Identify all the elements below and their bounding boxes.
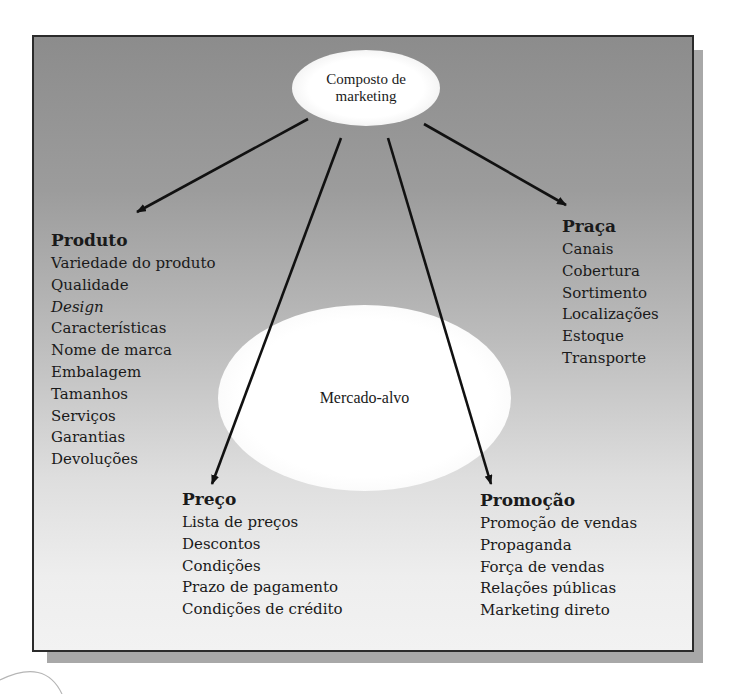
list-item: Marketing direto (480, 600, 637, 622)
group-produto: Produto Variedade do produto Qualidade D… (51, 229, 216, 471)
list-item: Promoção de vendas (480, 513, 637, 535)
arrow-to-produto (137, 119, 308, 212)
list-item: Cobertura (562, 261, 659, 283)
decorative-arc (0, 660, 80, 694)
arrow-to-preco (212, 138, 341, 484)
arrow-to-praca (424, 124, 566, 205)
list-item: Condições de crédito (182, 599, 343, 621)
list-item: Descontos (182, 534, 343, 556)
list-item: Força de vendas (480, 557, 637, 579)
group-title: Preço (182, 488, 343, 510)
group-title: Promoção (480, 489, 637, 511)
list-item: Condições (182, 556, 343, 578)
list-item: Transporte (562, 348, 659, 370)
list-item: Design (51, 297, 216, 319)
list-item: Lista de preços (182, 512, 343, 534)
list-item: Devoluções (51, 449, 216, 471)
group-title: Produto (51, 229, 216, 251)
list-item: Qualidade (51, 275, 216, 297)
arrow-to-promocao (388, 138, 491, 484)
group-promocao: Promoção Promoção de vendas Propaganda F… (480, 489, 637, 622)
list-item: Propaganda (480, 535, 637, 557)
group-praca: Praça Canais Cobertura Sortimento Locali… (562, 215, 659, 370)
list-item: Serviços (51, 406, 216, 428)
list-item: Nome de marca (51, 340, 216, 362)
list-item: Localizações (562, 304, 659, 326)
marketing-mix-node: Composto de marketing (292, 50, 440, 126)
marketing-mix-label-line2: marketing (326, 88, 406, 105)
list-item: Características (51, 318, 216, 340)
list-item: Tamanhos (51, 384, 216, 406)
list-item: Variedade do produto (51, 253, 216, 275)
marketing-mix-label-line1: Composto de (326, 71, 406, 88)
group-title: Praça (562, 215, 659, 237)
list-item: Prazo de pagamento (182, 577, 343, 599)
list-item: Embalagem (51, 362, 216, 384)
group-preco: Preço Lista de preços Descontos Condiçõe… (182, 488, 343, 621)
list-item: Estoque (562, 326, 659, 348)
list-item: Relações públicas (480, 578, 637, 600)
list-item: Canais (562, 239, 659, 261)
list-item: Garantias (51, 427, 216, 449)
list-item: Sortimento (562, 283, 659, 305)
